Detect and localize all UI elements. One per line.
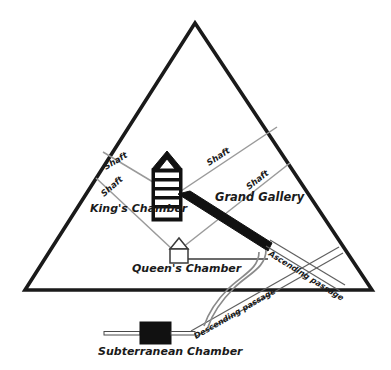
label-ascending-passage: Ascending passage <box>266 249 346 303</box>
subterranean-chamber-structure <box>104 322 195 344</box>
relieving-chamber-void-2 <box>155 182 179 188</box>
subterranean-left-passage <box>104 332 140 336</box>
label-queens-chamber: Queen's Chamber <box>132 262 242 275</box>
label-shaft-ne-upper: Shaft <box>205 145 233 168</box>
shaft-lines-group <box>96 127 290 251</box>
queens-chamber-room <box>170 249 188 263</box>
subterranean-chamber-block <box>140 322 171 344</box>
relieving-chamber-void-3 <box>155 191 179 197</box>
relieving-chamber-void-1 <box>155 173 179 179</box>
label-kings-chamber: King's Chamber <box>90 202 188 215</box>
shaft-line-ne-lower <box>178 163 290 251</box>
label-shaft-nw-lower: Shaft <box>99 174 126 199</box>
label-subterranean-chamber: Subterranean Chamber <box>98 345 243 358</box>
pyramid-cross-section-svg: King's Chamber Queen's Chamber Grand Gal… <box>0 0 391 370</box>
shaft-line-ne-upper <box>178 127 277 193</box>
pyramid-outline-path <box>25 23 372 290</box>
queens-chamber-roof <box>170 238 188 249</box>
label-descending-passage: Descending passage <box>193 286 278 340</box>
label-grand-gallery: Grand Gallery <box>215 190 305 204</box>
pyramid-outline <box>25 23 372 290</box>
label-shaft-nw-upper: Shaft <box>102 149 130 171</box>
subterranean-right-passage <box>171 332 195 336</box>
pyramid-diagram: King's Chamber Queen's Chamber Grand Gal… <box>0 0 391 370</box>
kings-chamber-gable-roof <box>152 151 182 169</box>
